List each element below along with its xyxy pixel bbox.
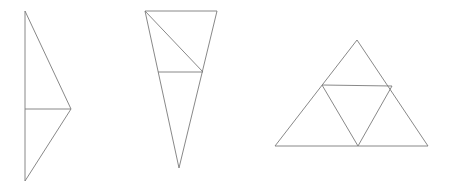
segment-line (322, 85, 358, 146)
triangle-outline (275, 40, 428, 146)
segment-line (145, 11, 203, 72)
triangle-outline (25, 11, 71, 181)
right-subdivided-triangle (275, 40, 428, 146)
triangle-outline (145, 11, 217, 168)
segment-line (322, 85, 392, 86)
diagram-canvas (0, 0, 449, 192)
middle-inverted-triangle (145, 11, 217, 168)
segment-line (358, 86, 392, 146)
geometry-figures (0, 0, 449, 192)
left-kite-triangle (25, 11, 71, 181)
